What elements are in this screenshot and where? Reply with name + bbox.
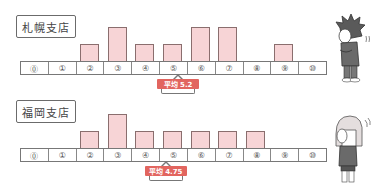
histogram-bar xyxy=(246,131,265,148)
scale-cell: ⑨ xyxy=(271,149,299,161)
scale-cell: ⑦ xyxy=(216,149,244,161)
scale-cell: ③ xyxy=(104,149,132,161)
scale-cell: ⑥ xyxy=(188,149,216,161)
panel-fukuoka: 福岡支店 ⓪①②③④⑤⑥⑦⑧⑨⑩ 平均 4.75 xyxy=(0,0,382,96)
mean-marker: 平均 4.75 xyxy=(145,161,187,181)
scale-cell: ⓪ xyxy=(21,149,49,161)
scale-cell: ② xyxy=(77,149,105,161)
mean-badge: 平均 4.75 xyxy=(145,166,187,176)
histogram-bar xyxy=(163,131,182,148)
scale-cell: ⑧ xyxy=(244,149,272,161)
panel-title: 福岡支店 xyxy=(16,100,76,123)
scale-cell: ⑤ xyxy=(160,149,188,161)
scale-cell: ④ xyxy=(132,149,160,161)
number-scale: ⓪①②③④⑤⑥⑦⑧⑨⑩ xyxy=(20,148,327,162)
histogram-bar xyxy=(108,114,127,148)
histogram-bar xyxy=(80,131,99,148)
scale-cell: ⑩ xyxy=(299,149,326,161)
histogram-bar xyxy=(135,131,154,148)
histogram-bar xyxy=(218,131,237,148)
scale-cell: ① xyxy=(49,149,77,161)
girl-thinking-icon xyxy=(330,112,374,188)
histogram-bar xyxy=(191,131,210,148)
marker-stand xyxy=(149,176,183,181)
